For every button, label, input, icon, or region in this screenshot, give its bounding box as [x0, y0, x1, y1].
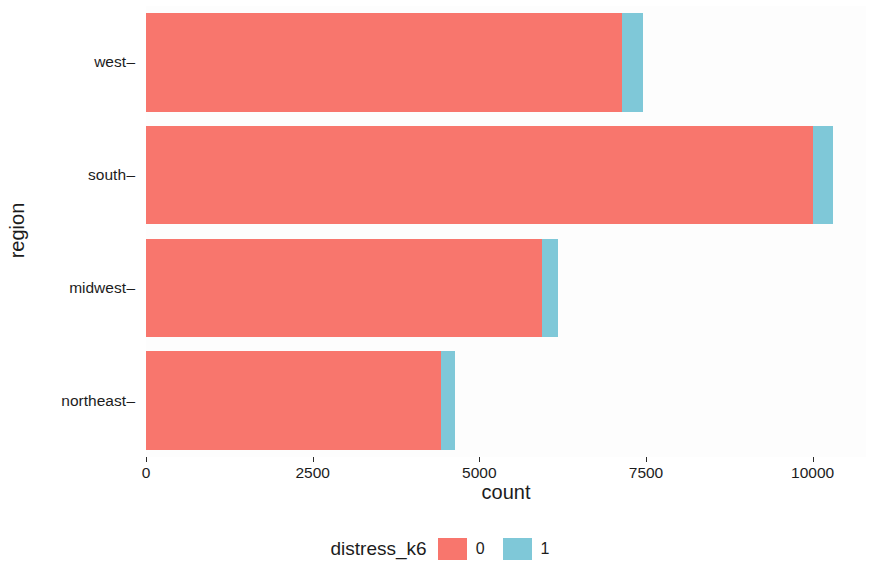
- y-tick-mark-south: –: [126, 167, 135, 183]
- y-tick-label-northeast: northeast: [61, 392, 126, 410]
- y-tick-mark-midwest: –: [126, 280, 135, 296]
- y-axis-tick-labels: west–south–midwest–northeast–: [34, 10, 138, 453]
- y-tick-mark-northeast: –: [126, 393, 135, 409]
- plot-panel: [146, 6, 866, 457]
- x-tick-label-2500: 2500: [295, 464, 329, 482]
- x-tick-label-0: 0: [142, 464, 151, 482]
- legend-swatch-1: [503, 538, 532, 560]
- x-axis-title-text: count: [482, 481, 531, 503]
- x-tick-mark-2500: [313, 457, 314, 462]
- bar-west: [146, 13, 643, 112]
- legend-item-1: 1: [503, 538, 550, 560]
- legend-title: distress_k6: [331, 538, 427, 560]
- legend-label-1: 1: [541, 540, 550, 558]
- y-axis-title: region: [2, 0, 34, 460]
- y-tick-mark-west: –: [126, 55, 135, 71]
- bar-segment-west-1: [622, 13, 643, 112]
- bar-midwest: [146, 239, 558, 338]
- y-tick-label-midwest: midwest: [69, 279, 126, 297]
- legend-label-0: 0: [476, 540, 485, 558]
- y-tick-label-south: south: [88, 166, 126, 184]
- bar-northeast: [146, 351, 455, 450]
- x-tick-mark-10000: [813, 457, 814, 462]
- legend-entries: 01: [438, 538, 550, 560]
- x-tick-mark-5000: [479, 457, 480, 462]
- bar-segment-west-0: [146, 13, 622, 112]
- y-tick-label-west: west: [94, 53, 126, 71]
- chart-legend: distress_k6 01: [0, 528, 880, 570]
- legend-swatch-0: [438, 538, 467, 560]
- bar-segment-northeast-0: [146, 351, 441, 450]
- bar-segment-south-1: [813, 126, 834, 225]
- bar-segment-northeast-1: [441, 351, 455, 450]
- x-tick-mark-0: [146, 457, 147, 462]
- x-tick-label-7500: 7500: [629, 464, 663, 482]
- bar-segment-midwest-1: [542, 239, 558, 338]
- y-axis-title-text: region: [7, 202, 30, 258]
- x-tick-label-5000: 5000: [462, 464, 496, 482]
- x-tick-mark-7500: [646, 457, 647, 462]
- legend-item-0: 0: [438, 538, 485, 560]
- x-axis-title: count: [146, 481, 866, 504]
- bar-segment-south-0: [146, 126, 813, 225]
- bar-south: [146, 126, 833, 225]
- x-tick-label-10000: 10000: [791, 464, 834, 482]
- bar-segment-midwest-0: [146, 239, 542, 338]
- bar-chart: region west–south–midwest–northeast– 025…: [0, 0, 880, 570]
